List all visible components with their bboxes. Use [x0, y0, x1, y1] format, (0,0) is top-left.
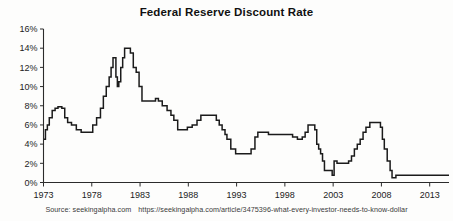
y-tick-label: 2% [24, 159, 37, 169]
x-tick-label: 2013 [420, 190, 440, 200]
x-tick-label: 1993 [227, 190, 247, 200]
y-tick-label: 0% [24, 178, 37, 188]
y-axis: 0%2%4%6%8%10%12%14%16% [19, 24, 43, 188]
line-chart-plot: 0%2%4%6%8%10%12%14%16% 19731978198319881… [0, 0, 453, 221]
y-tick-label: 4% [24, 139, 37, 149]
x-tick-label: 1978 [82, 190, 102, 200]
y-tick-label: 16% [19, 24, 37, 34]
source-url: https://seekingalpha.com/article/3475396… [138, 205, 407, 214]
x-tick-label: 2003 [323, 190, 343, 200]
source-caption: Source: seekingalpha.comhttps://seekinga… [0, 205, 453, 214]
x-axis: 197319781983198819931998200320082013 [33, 183, 439, 200]
y-tick-label: 12% [19, 63, 37, 73]
source-label: Source: seekingalpha.com [45, 205, 131, 214]
y-tick-label: 6% [24, 120, 37, 130]
y-tick-label: 10% [19, 82, 37, 92]
chart-figure: Federal Reserve Discount Rate 0%2%4%6%8%… [0, 0, 453, 221]
discount-rate-line [44, 48, 450, 178]
x-tick-label: 1988 [178, 190, 198, 200]
y-tick-label: 14% [19, 43, 37, 53]
x-tick-label: 1983 [130, 190, 150, 200]
x-tick-label: 1973 [33, 190, 53, 200]
y-tick-label: 8% [24, 101, 37, 111]
x-tick-label: 1998 [275, 190, 295, 200]
x-tick-label: 2008 [371, 190, 391, 200]
